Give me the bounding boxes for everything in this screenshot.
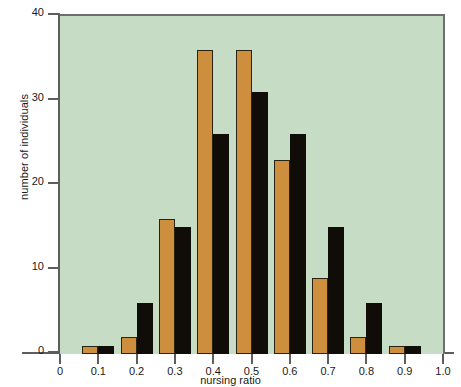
- bar-orange-0.4: [197, 50, 213, 354]
- y-tick-label-0: 0: [14, 344, 44, 356]
- x-tick-0.5: [251, 354, 253, 364]
- bar-orange-0.1: [82, 346, 98, 354]
- y-tick-label-30: 30: [14, 91, 44, 103]
- plot-area: [60, 14, 445, 354]
- x-tick-0.4: [212, 354, 214, 364]
- bar-orange-0.8: [350, 337, 366, 354]
- x-tick-0: [59, 354, 61, 364]
- x-tick-0.1: [97, 354, 99, 364]
- x-tick-1.0: [442, 354, 444, 364]
- x-tick-0.8: [365, 354, 367, 364]
- x-axis-title: nursing ratio: [0, 374, 461, 386]
- bar-orange-0.9: [389, 346, 405, 354]
- x-tick-0.2: [136, 354, 138, 364]
- bar-orange-0.3: [159, 219, 175, 354]
- bar-orange-0.6: [274, 160, 290, 354]
- y-tick-label-40: 40: [14, 6, 44, 18]
- y-tick-40: [48, 13, 58, 15]
- y-tick-30: [48, 98, 58, 100]
- y-tick-label-20: 20: [14, 175, 44, 187]
- y-tick-20: [48, 182, 58, 184]
- bar-black-0.1: [98, 346, 114, 354]
- bar-orange-0.2: [121, 337, 137, 354]
- y-tick-0: [48, 351, 58, 353]
- y-axis-title: number of individuals: [18, 37, 30, 257]
- x-tick-0.9: [404, 354, 406, 364]
- bar-black-0.3: [175, 227, 191, 354]
- bar-black-0.8: [366, 303, 382, 354]
- bar-black-0.5: [252, 92, 268, 354]
- bar-black-0.2: [137, 303, 153, 354]
- x-tick-0.6: [289, 354, 291, 364]
- bar-black-0.7: [328, 227, 344, 354]
- histogram-chart: number of individuals 010203040 00.10.20…: [0, 0, 461, 387]
- bar-orange-0.5: [236, 50, 252, 354]
- x-tick-0.3: [174, 354, 176, 364]
- x-tick-0.7: [327, 354, 329, 364]
- bar-black-0.4: [213, 134, 229, 354]
- bar-black-0.9: [405, 346, 421, 354]
- bar-orange-0.7: [312, 278, 328, 354]
- y-tick-10: [48, 267, 58, 269]
- bar-black-0.6: [290, 134, 306, 354]
- y-tick-label-10: 10: [14, 260, 44, 272]
